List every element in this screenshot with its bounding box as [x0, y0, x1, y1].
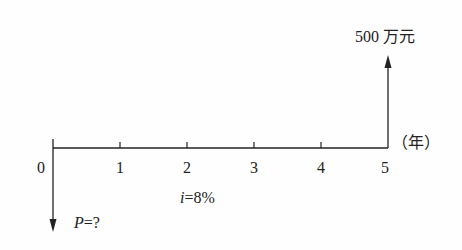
outflow-var: P	[74, 214, 84, 231]
rate-value: =8%	[184, 189, 214, 206]
inflow-label: 500 万元	[355, 29, 415, 45]
rate-label: i=8%	[180, 190, 215, 206]
period-label-0: 0	[37, 160, 45, 176]
period-label-4: 4	[317, 160, 325, 176]
outflow-label: P=?	[74, 215, 100, 231]
outflow-value: =?	[84, 214, 100, 231]
period-label-5: 5	[381, 160, 389, 176]
cash-flow-diagram: 0 1 2 3 4 5 （年） 500 万元 i=8% P=?	[0, 0, 462, 250]
period-label-1: 1	[116, 160, 124, 176]
unit-label: （年）	[392, 135, 440, 151]
period-label-2: 2	[183, 160, 191, 176]
period-label-3: 3	[250, 160, 258, 176]
